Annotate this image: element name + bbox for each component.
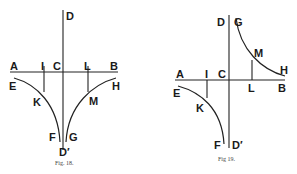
- label-m: M: [89, 95, 98, 107]
- label-g: G: [69, 131, 78, 143]
- label-g: G: [234, 16, 243, 28]
- label-d-prime: D′: [59, 146, 70, 158]
- label-k: K: [196, 102, 204, 114]
- caption-fig18: Fig. 18.: [55, 160, 74, 166]
- label-h: H: [112, 80, 120, 92]
- label-c: C: [53, 60, 61, 72]
- label-d: D: [66, 10, 74, 22]
- figures-canvas: A I C L B D E H K M F G D′ Fig. 18. A I …: [0, 0, 297, 174]
- label-l: L: [84, 60, 91, 72]
- label-i: I: [205, 68, 208, 80]
- caption-fig19: Fig 19.: [218, 156, 236, 162]
- label-e: E: [173, 87, 180, 99]
- label-i: I: [41, 60, 44, 72]
- label-f: F: [214, 139, 221, 151]
- label-a: A: [10, 60, 18, 72]
- label-c: C: [218, 68, 226, 80]
- figure-19: A I C L B D G M H E K F D′ Fig 19.: [173, 15, 288, 162]
- label-l: L: [248, 82, 255, 94]
- label-e: E: [9, 80, 16, 92]
- label-h: H: [280, 64, 288, 76]
- curve-ef: [178, 86, 224, 144]
- label-a: A: [176, 68, 184, 80]
- label-k: K: [33, 96, 41, 108]
- label-d: D: [217, 16, 225, 28]
- figure-18: A I C L B D E H K M F G D′ Fig. 18.: [9, 10, 120, 166]
- label-b: B: [110, 60, 118, 72]
- label-b: B: [278, 82, 286, 94]
- label-d-prime: D′: [232, 139, 243, 151]
- label-f: F: [49, 131, 56, 143]
- label-m: M: [254, 47, 263, 59]
